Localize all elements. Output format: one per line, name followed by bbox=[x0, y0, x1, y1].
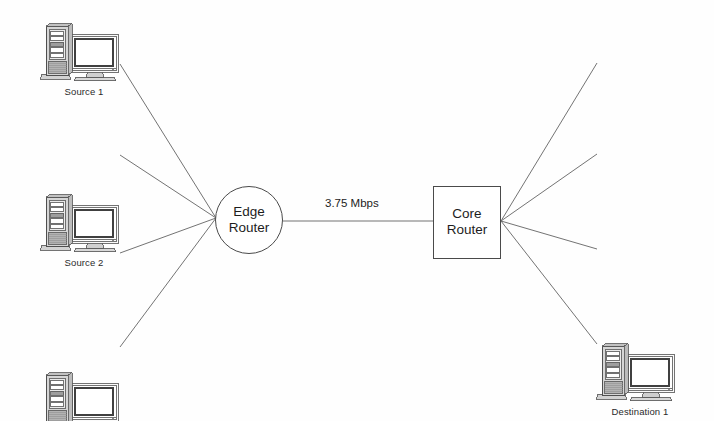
computer-icon bbox=[36, 371, 120, 421]
link-core-router-to-destination-1 bbox=[501, 63, 597, 221]
source-label-2: Source 2 bbox=[36, 257, 132, 268]
link-core-router-to-destination-2 bbox=[501, 154, 597, 221]
source-host-3[interactable]: Source 3 bbox=[36, 371, 132, 421]
link-source-4-to-edge-router bbox=[120, 218, 216, 347]
edge-router-label-line1: Edge bbox=[233, 204, 265, 220]
core-router-label-line1: Core bbox=[452, 206, 481, 222]
link-source-3-to-edge-router bbox=[120, 218, 216, 253]
computer-icon bbox=[592, 342, 676, 404]
edge-router-node[interactable]: Edge Router bbox=[215, 186, 283, 254]
destination-host-1[interactable]: Destination 1 bbox=[592, 342, 688, 421]
core-router-node[interactable]: Core Router bbox=[433, 186, 501, 259]
network-diagram: Edge Router Core Router 3.75 Mbps bbox=[0, 0, 714, 421]
edge-router-label-line2: Router bbox=[229, 220, 270, 236]
link-source-2-to-edge-router bbox=[120, 155, 216, 218]
core-router-label-line2: Router bbox=[447, 222, 488, 238]
link-core-router-to-destination-3 bbox=[501, 221, 597, 249]
link-core-router-to-destination-4 bbox=[501, 221, 597, 344]
source-label-1: Source 1 bbox=[36, 86, 132, 97]
destination-label-1: Destination 1 bbox=[592, 406, 688, 417]
link-bandwidth-label: 3.75 Mbps bbox=[325, 197, 379, 209]
source-host-2[interactable]: Source 2 bbox=[36, 193, 132, 273]
computer-icon bbox=[36, 22, 120, 84]
computer-icon bbox=[36, 193, 120, 255]
source-host-1[interactable]: Source 1 bbox=[36, 22, 132, 102]
link-source-1-to-edge-router bbox=[120, 64, 216, 218]
